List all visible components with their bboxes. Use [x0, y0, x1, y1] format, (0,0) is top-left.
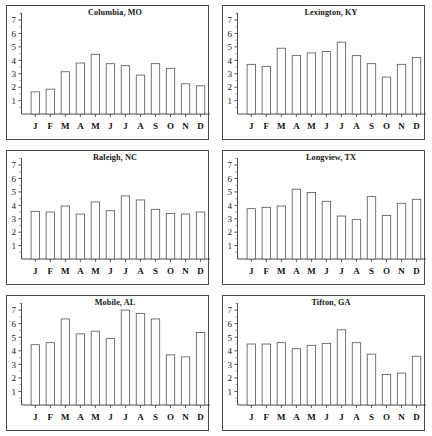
x-axis-tick-label: D — [413, 412, 420, 422]
bar — [151, 209, 159, 259]
x-axis-tick-label: S — [153, 412, 158, 422]
bar — [46, 89, 54, 114]
bar — [106, 211, 114, 259]
y-axis-tick-label: 6 — [12, 174, 17, 184]
x-axis-tick-label: A — [353, 121, 360, 131]
bar — [382, 375, 390, 405]
x-axis-tick-label: J — [249, 412, 254, 422]
y-axis-tick-label: 5 — [228, 42, 233, 52]
y-axis-tick-label: 3 — [12, 360, 17, 370]
bar — [46, 343, 54, 405]
x-axis-tick-label: F — [48, 412, 54, 422]
bar — [106, 64, 114, 114]
bar — [46, 212, 54, 259]
bar — [181, 357, 189, 405]
y-axis-tick-label: 3 — [12, 214, 17, 224]
bar — [31, 345, 39, 405]
x-axis-tick-label: O — [167, 266, 174, 276]
y-axis-tick-label: 4 — [12, 56, 17, 66]
bar — [307, 53, 315, 114]
x-axis-tick-label: S — [153, 121, 158, 131]
x-axis-tick-label: J — [33, 121, 38, 131]
x-axis-tick-label: J — [33, 412, 38, 422]
x-axis-tick-label: S — [369, 412, 374, 422]
y-axis-tick-label: 5 — [12, 42, 17, 52]
x-axis-tick-label: F — [264, 121, 270, 131]
x-axis-tick-label: A — [353, 412, 360, 422]
y-axis-tick-label: 2 — [12, 82, 17, 92]
y-axis-tick-label: 5 — [228, 333, 233, 343]
y-axis-tick-label: 4 — [228, 56, 233, 66]
x-axis-tick-label: O — [167, 121, 174, 131]
x-axis-tick-label: J — [123, 121, 128, 131]
y-axis-tick-label: 7 — [228, 305, 233, 315]
bar — [196, 212, 204, 259]
chart-panel-2: Raleigh, NC 1234567JFMAMJJASOND — [0, 145, 216, 290]
x-axis-tick-label: M — [307, 266, 316, 276]
bar — [61, 72, 69, 114]
bar — [151, 319, 159, 405]
bar — [352, 219, 360, 259]
bar — [262, 344, 270, 405]
x-axis-tick-label: D — [413, 121, 420, 131]
x-axis-tick-label: O — [383, 266, 390, 276]
y-axis-tick-label: 6 — [12, 29, 17, 39]
bar — [352, 343, 360, 405]
y-axis-tick-label: 6 — [228, 174, 233, 184]
x-axis-tick-label: N — [398, 266, 405, 276]
y-axis-tick-label: 4 — [12, 201, 17, 211]
bar — [262, 66, 270, 114]
x-axis-tick-label: F — [264, 266, 270, 276]
x-axis-tick-label: D — [413, 266, 420, 276]
x-axis-tick-label: J — [339, 121, 344, 131]
bar — [352, 56, 360, 114]
bar — [196, 332, 204, 405]
y-axis-tick-label: 1 — [12, 387, 17, 397]
bar — [322, 52, 330, 114]
chart-panel-1: Lexington, KY 1234567JFMAMJJASOND — [216, 0, 432, 145]
y-axis-tick-label: 2 — [12, 227, 17, 237]
bar — [181, 84, 189, 114]
x-axis-tick-label: D — [197, 412, 204, 422]
bar — [166, 68, 174, 114]
y-axis-tick-label: 6 — [228, 319, 233, 329]
bar — [91, 202, 99, 259]
bar — [136, 200, 144, 259]
x-axis-tick-label: F — [48, 266, 54, 276]
bar — [367, 354, 375, 405]
x-axis-tick-label: O — [383, 121, 390, 131]
y-axis-tick-label: 7 — [228, 15, 233, 25]
bar — [397, 64, 405, 114]
bar — [151, 64, 159, 114]
y-axis-tick-label: 2 — [12, 373, 17, 383]
bar — [247, 64, 255, 114]
y-axis-tick-label: 1 — [228, 387, 233, 397]
bar — [121, 196, 129, 259]
x-axis-tick-label: J — [249, 266, 254, 276]
y-axis-tick-label: 5 — [12, 333, 17, 343]
bar — [397, 203, 405, 259]
y-axis-tick-label: 1 — [228, 96, 233, 106]
panel-plot-0: 1234567JFMAMJJASOND — [0, 0, 216, 145]
bar — [322, 201, 330, 259]
x-axis-tick-label: M — [277, 266, 286, 276]
y-axis-tick-label: 1 — [12, 96, 17, 106]
x-axis-tick-label: J — [324, 121, 329, 131]
bar — [322, 343, 330, 405]
panel-plot-1: 1234567JFMAMJJASOND — [216, 0, 432, 145]
y-axis-tick-label: 4 — [228, 346, 233, 356]
x-axis-tick-label: A — [77, 266, 84, 276]
x-axis-tick-label: N — [398, 412, 405, 422]
bar — [397, 373, 405, 405]
bar — [196, 86, 204, 114]
bar — [61, 319, 69, 405]
bar — [166, 355, 174, 405]
bar — [247, 344, 255, 405]
chart-grid: Columbia, MO 1234567JFMAMJJASOND Lexingt… — [0, 0, 432, 436]
x-axis-tick-label: M — [307, 121, 316, 131]
y-axis-tick-label: 6 — [228, 29, 233, 39]
bar — [76, 214, 84, 259]
x-axis-tick-label: A — [77, 121, 84, 131]
x-axis-tick-label: S — [153, 266, 158, 276]
bar — [91, 54, 99, 114]
